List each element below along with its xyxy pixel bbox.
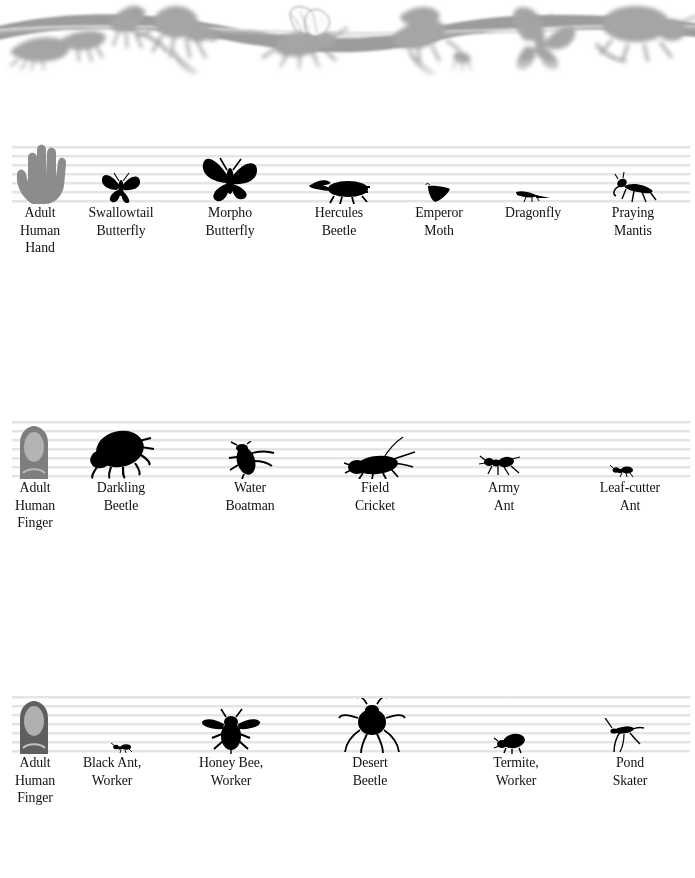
specimen-strip-row-2 bbox=[0, 417, 695, 479]
field-cricket-silhouette-icon bbox=[343, 435, 421, 479]
specimen-label-praying-mantis: Praying Mantis bbox=[592, 204, 675, 239]
swallowtail-butterfly-silhouette-icon bbox=[99, 170, 143, 204]
black-ant-worker-silhouette-icon bbox=[109, 740, 135, 754]
comparison-row-hand-scale: Adult Human Hand Swallowtail Butterfly M… bbox=[0, 142, 695, 274]
specimen-strip-row-1 bbox=[0, 142, 695, 204]
specimen-swallowtail-butterfly[interactable] bbox=[96, 142, 146, 204]
label-strip-row-2: Adult Human Finger Darkling Beetle Water… bbox=[0, 479, 695, 549]
pond-skater-silhouette-icon bbox=[600, 718, 648, 754]
specimen-emperor-moth[interactable] bbox=[414, 142, 464, 204]
honey-bee-worker-silhouette-icon bbox=[200, 708, 262, 754]
specimen-label-leaf-cutter-ant: Leaf-cutter Ant bbox=[584, 479, 676, 514]
specimen-label-pond-skater: Pond Skater bbox=[588, 754, 673, 789]
specimen-hercules-beetle[interactable] bbox=[306, 142, 374, 204]
specimen-label-morpho-butterfly: Morpho Butterfly bbox=[188, 204, 273, 239]
desert-beetle-silhouette-icon bbox=[337, 698, 407, 754]
darkling-beetle-silhouette-icon bbox=[89, 427, 155, 479]
label-strip-row-3: Adult Human Finger Black Ant, Worker Hon… bbox=[0, 754, 695, 824]
decorative-header-banner bbox=[0, 0, 695, 80]
specimen-field-cricket[interactable] bbox=[340, 417, 424, 479]
specimen-label-adult-human-finger-row3: Adult Human Finger bbox=[3, 754, 67, 807]
specimen-label-hercules-beetle: Hercules Beetle bbox=[299, 204, 378, 239]
emperor-moth-silhouette-icon bbox=[424, 182, 454, 204]
specimen-desert-beetle[interactable] bbox=[332, 692, 412, 754]
specimen-pond-skater[interactable] bbox=[596, 692, 652, 754]
army-ant-silhouette-icon bbox=[478, 451, 526, 479]
specimen-praying-mantis[interactable] bbox=[604, 142, 660, 204]
morpho-butterfly-silhouette-icon bbox=[199, 154, 261, 204]
specimen-darkling-beetle[interactable] bbox=[84, 417, 160, 479]
specimen-water-boatman[interactable] bbox=[218, 417, 282, 479]
specimen-black-ant-worker[interactable] bbox=[94, 692, 150, 754]
termite-worker-silhouette-icon bbox=[493, 730, 533, 754]
leaf-cutter-ant-silhouette-icon bbox=[609, 463, 639, 479]
specimen-leaf-cutter-ant[interactable] bbox=[596, 417, 652, 479]
specimen-label-darkling-beetle: Darkling Beetle bbox=[80, 479, 163, 514]
hand-silhouette-icon bbox=[12, 142, 68, 204]
comparison-row-finger-scale-2: Adult Human Finger Black Ant, Worker Hon… bbox=[0, 692, 695, 824]
specimen-adult-human-finger-row3[interactable] bbox=[10, 692, 58, 754]
specimen-label-black-ant-worker: Black Ant, Worker bbox=[70, 754, 155, 789]
specimen-strip-row-3 bbox=[0, 692, 695, 754]
hercules-beetle-silhouette-icon bbox=[308, 178, 372, 204]
water-boatman-silhouette-icon bbox=[224, 441, 276, 479]
specimen-label-adult-human-finger-row2: Adult Human Finger bbox=[3, 479, 67, 532]
label-strip-row-1: Adult Human Hand Swallowtail Butterfly M… bbox=[0, 204, 695, 274]
dragonfly-silhouette-icon bbox=[512, 188, 552, 204]
specimen-termite-worker[interactable] bbox=[482, 692, 544, 754]
specimen-label-termite-worker: Termite, Worker bbox=[474, 754, 559, 789]
specimen-label-swallowtail-butterfly: Swallowtail Butterfly bbox=[80, 204, 163, 239]
specimen-army-ant[interactable] bbox=[470, 417, 534, 479]
specimen-adult-human-finger-row2[interactable] bbox=[10, 417, 58, 479]
specimen-label-honey-bee-worker: Honey Bee, Worker bbox=[188, 754, 274, 789]
praying-mantis-silhouette-icon bbox=[606, 172, 658, 204]
comparison-row-finger-scale-1: Adult Human Finger Darkling Beetle Water… bbox=[0, 417, 695, 549]
specimen-dragonfly[interactable] bbox=[506, 142, 558, 204]
specimen-label-adult-human-hand: Adult Human Hand bbox=[3, 204, 77, 257]
specimen-honey-bee-worker[interactable] bbox=[196, 692, 266, 754]
finger-silhouette-icon bbox=[16, 425, 52, 479]
specimen-label-field-cricket: Field Cricket bbox=[334, 479, 417, 514]
specimen-morpho-butterfly[interactable] bbox=[196, 142, 264, 204]
specimen-label-water-boatman: Water Boatman bbox=[208, 479, 293, 514]
specimen-adult-human-hand[interactable] bbox=[8, 142, 72, 204]
specimen-label-emperor-moth: Emperor Moth bbox=[399, 204, 478, 239]
specimen-label-desert-beetle: Desert Beetle bbox=[330, 754, 411, 789]
specimen-label-dragonfly: Dragonfly bbox=[492, 204, 575, 222]
finger-silhouette-icon bbox=[16, 700, 52, 754]
specimen-label-army-ant: Army Ant bbox=[464, 479, 545, 514]
